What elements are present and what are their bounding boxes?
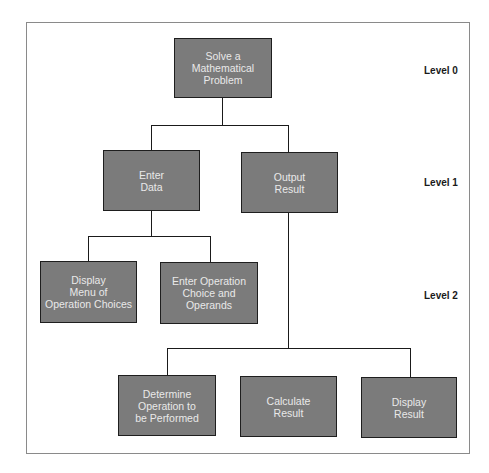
connector-to-display-result <box>410 348 411 378</box>
connector-to-determine-operation <box>167 348 168 376</box>
connector-output-result-bar <box>167 348 411 349</box>
connector-to-output-result <box>288 125 289 152</box>
node-output-result: Output Result <box>241 152 338 213</box>
node-enter-data: Enter Data <box>103 150 200 211</box>
node-determine-operation: Determine Operation to be Performed <box>118 375 216 436</box>
connector-to-enter-data <box>151 125 152 151</box>
connector-to-enter-operation <box>210 236 211 263</box>
connector-enter-data-bar <box>88 236 211 237</box>
level-1-label: Level 1 <box>424 177 458 188</box>
node-enter-operation: Enter Operation Choice and Operands <box>160 262 258 324</box>
node-display-menu: Display Menu of Operation Choices <box>40 261 137 323</box>
connector-enter-data-down <box>151 210 152 237</box>
connector-to-display-menu <box>88 236 89 262</box>
level-0-label: Level 0 <box>424 65 458 76</box>
connector-level1-bar <box>151 125 289 126</box>
connector-output-result-down <box>288 212 289 349</box>
node-display-result: Display Result <box>361 377 457 438</box>
connector-root-down <box>222 98 223 126</box>
node-solve-problem: Solve a Mathematical Problem <box>174 38 272 98</box>
node-calculate-result: Calculate Result <box>240 376 337 437</box>
level-2-label: Level 2 <box>424 290 458 301</box>
